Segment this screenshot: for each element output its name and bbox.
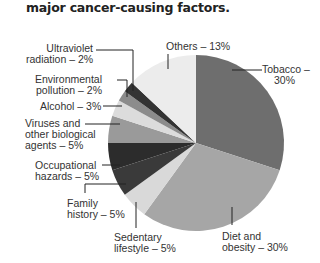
label-text: hazards – 5% xyxy=(35,171,99,182)
label-text: Others – 13% xyxy=(166,41,230,52)
pie-slices xyxy=(108,55,284,231)
label-text: lifestyle – 5% xyxy=(114,243,176,254)
label-tobacco: Tobacco – 30% xyxy=(262,64,310,86)
label-viruses: Viruses and other biological agents – 5% xyxy=(25,118,96,151)
label-text: 30% xyxy=(262,75,310,86)
label-alcohol: Alcohol – 3% xyxy=(40,101,101,112)
label-text: obesity – 30% xyxy=(222,242,288,253)
label-text: history – 5% xyxy=(67,209,125,220)
label-text: agents – 5% xyxy=(25,140,96,151)
label-environmental: Environmental pollution – 2% xyxy=(26,74,102,96)
label-family-history: Family history – 5% xyxy=(67,198,125,220)
label-text: Alcohol – 3% xyxy=(40,101,101,112)
label-text: radiation – 2% xyxy=(26,54,93,65)
label-diet: Diet and obesity – 30% xyxy=(222,231,288,253)
label-occupational: Occupational hazards – 5% xyxy=(35,160,99,182)
label-sedentary: Sedentary lifestyle – 5% xyxy=(114,232,176,254)
label-ultraviolet: Ultraviolet radiation – 2% xyxy=(26,43,93,65)
label-others: Others – 13% xyxy=(166,41,230,52)
label-text: pollution – 2% xyxy=(26,85,102,96)
